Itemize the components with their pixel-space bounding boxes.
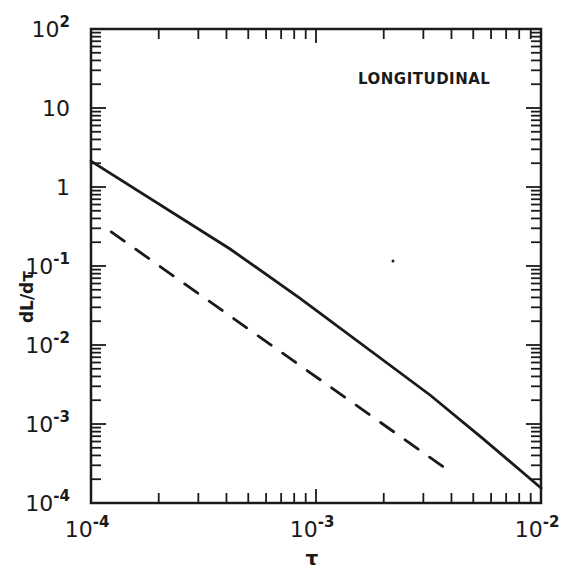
series-layer [91,161,541,488]
y-axis-title: dL/dτ [17,271,37,323]
series-dashed [111,232,445,468]
x-tick-label: 10-2 [515,513,560,542]
y-tick-label: 10-2 [25,329,70,358]
y-axis-tick-labels: 10-410-310-210-1110102 [25,13,70,516]
x-axis-title: τ [306,546,319,570]
chart: 10-410-310-210-1110102 10-410-310-2 LONG… [0,0,575,579]
x-axis-tick-labels: 10-410-310-2 [65,513,560,542]
x-tick-label: 10-4 [65,513,110,542]
annotation-longitudinal: LONGITUDINAL [358,70,490,88]
y-tick-label: 10 [42,96,70,121]
y-tick-label: 10-3 [25,408,70,437]
y-tick-label: 10-4 [25,487,70,516]
y-tick-label: 1 [56,175,70,200]
series-solid [91,161,541,488]
stray-dot [392,260,395,263]
x-tick-label: 10-3 [290,513,335,542]
y-tick-label: 102 [32,13,70,42]
